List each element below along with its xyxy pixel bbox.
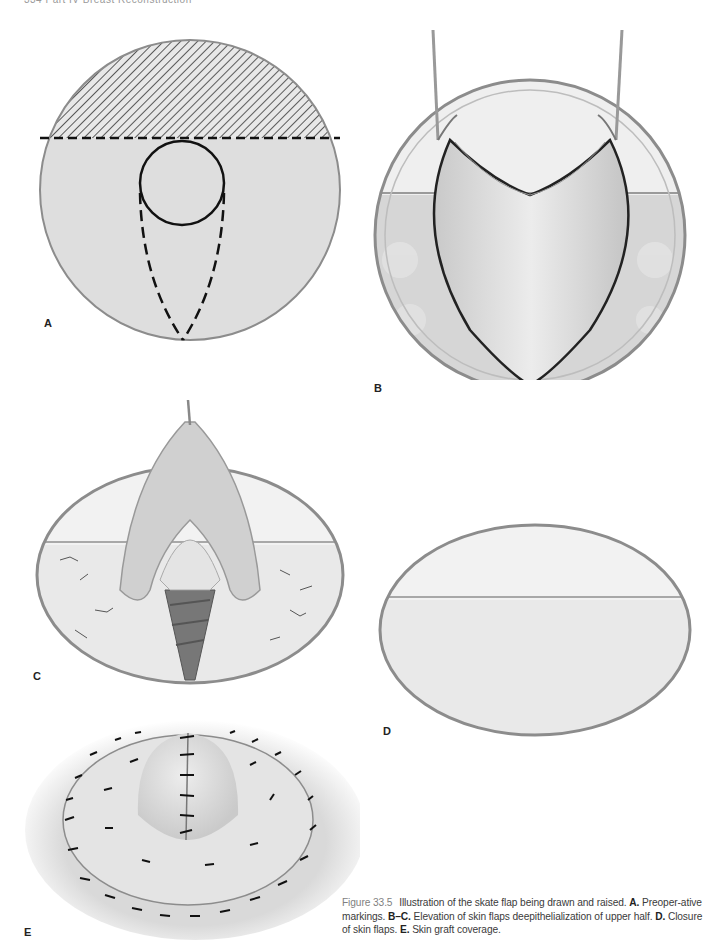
elevated-flap-illustration xyxy=(370,30,690,380)
figure-number: Figure 33.5 xyxy=(342,897,392,908)
caption-intro: Illustration of the skate flap being dra… xyxy=(399,897,626,908)
panel-d: D xyxy=(370,420,700,740)
caption-label-e: E. xyxy=(400,924,409,935)
panel-e: E xyxy=(20,700,360,945)
caption-label-d: D. xyxy=(655,911,665,922)
panel-label-a: A xyxy=(44,317,52,329)
panel-label-d: D xyxy=(383,725,391,737)
panel-label-c: C xyxy=(33,670,41,682)
flap-closure-illustration xyxy=(370,420,700,740)
figure-caption: Figure 33.5 Illustration of the skate fl… xyxy=(342,896,707,937)
preoperative-markings-illustration xyxy=(30,30,350,350)
panel-label-e: E xyxy=(24,926,31,938)
running-head: 334 Part IV Breast Reconstruction xyxy=(24,0,192,5)
deepithelialization-illustration xyxy=(20,400,360,700)
caption-label-bc: B–C. xyxy=(388,911,411,922)
panel-label-b: B xyxy=(374,382,382,394)
panel-a: A xyxy=(30,30,350,350)
skin-graft-illustration xyxy=(20,700,360,945)
caption-label-a: A. xyxy=(629,897,639,908)
panel-b: B xyxy=(370,30,690,380)
caption-text-e: Skin graft coverage. xyxy=(412,924,501,935)
panel-c: C xyxy=(20,400,360,700)
caption-text-bc: Elevation of skin flaps deepithelializat… xyxy=(414,911,653,922)
